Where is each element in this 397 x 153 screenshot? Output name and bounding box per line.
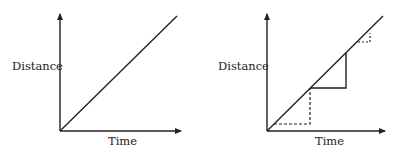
left-x-label: Time: [108, 134, 137, 148]
left-diagram: Distance Time: [12, 14, 181, 148]
diagram-canvas: Distance Time Distance Time: [0, 0, 397, 153]
right-distance-line: [267, 16, 383, 131]
right-x-label: Time: [315, 134, 344, 148]
right-y-label: Distance: [218, 59, 269, 73]
left-distance-line: [60, 16, 177, 131]
left-y-label: Distance: [12, 59, 63, 73]
right-diagram: Distance Time: [218, 14, 385, 148]
